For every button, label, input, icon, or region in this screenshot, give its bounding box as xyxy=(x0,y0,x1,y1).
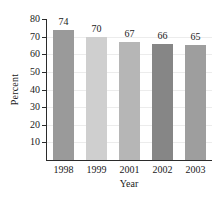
bar-group: 70 xyxy=(86,19,106,160)
bar-group: 65 xyxy=(185,19,205,160)
bar-chart: Percent 1020304050607080 7470676665 1998… xyxy=(0,0,224,198)
bar-group: 66 xyxy=(152,19,172,160)
bar xyxy=(119,42,139,160)
y-axis-tick-label: 80 xyxy=(30,14,40,24)
bar xyxy=(53,30,73,160)
y-axis-title: Percent xyxy=(9,55,20,125)
x-axis-tick-label: 2002 xyxy=(153,165,173,175)
bar xyxy=(86,37,106,160)
y-axis-tick-mark xyxy=(42,37,46,38)
x-axis-tick-label: 1999 xyxy=(87,165,107,175)
bar-value-label: 66 xyxy=(157,31,167,41)
bar-value-label: 67 xyxy=(124,29,134,39)
bar xyxy=(185,45,205,160)
y-axis-tick-label: 60 xyxy=(30,49,40,59)
y-axis-tick-mark xyxy=(42,125,46,126)
x-axis-tick-label: 2003 xyxy=(186,165,206,175)
x-axis-line xyxy=(46,160,212,161)
y-axis-tick-label: 50 xyxy=(30,67,40,77)
x-axis-tick-label: 1998 xyxy=(54,165,74,175)
y-axis-tick-mark xyxy=(42,107,46,108)
y-axis-tick-label: 30 xyxy=(30,102,40,112)
y-axis-tick-mark xyxy=(42,90,46,91)
y-axis-tick-mark xyxy=(42,19,46,20)
bar-value-label: 65 xyxy=(190,32,200,42)
y-axis-tick-mark xyxy=(42,54,46,55)
y-axis-tick-mark xyxy=(42,72,46,73)
bar-value-label: 74 xyxy=(58,17,68,27)
y-axis-tick-label: 70 xyxy=(30,32,40,42)
bar-value-label: 70 xyxy=(91,24,101,34)
y-axis-tick-mark xyxy=(42,142,46,143)
bar xyxy=(152,44,172,160)
bar-group: 67 xyxy=(119,19,139,160)
bars-container: 7470676665 xyxy=(47,19,212,160)
plot-area: 1020304050607080 7470676665 199819992001… xyxy=(46,19,212,161)
x-axis-tick-label: 2001 xyxy=(120,165,140,175)
x-axis-title: Year xyxy=(46,178,212,189)
y-axis-tick-label: 40 xyxy=(30,85,40,95)
y-axis-tick-label: 20 xyxy=(30,120,40,130)
y-axis-tick-label: 10 xyxy=(30,137,40,147)
bar-group: 74 xyxy=(53,19,73,160)
